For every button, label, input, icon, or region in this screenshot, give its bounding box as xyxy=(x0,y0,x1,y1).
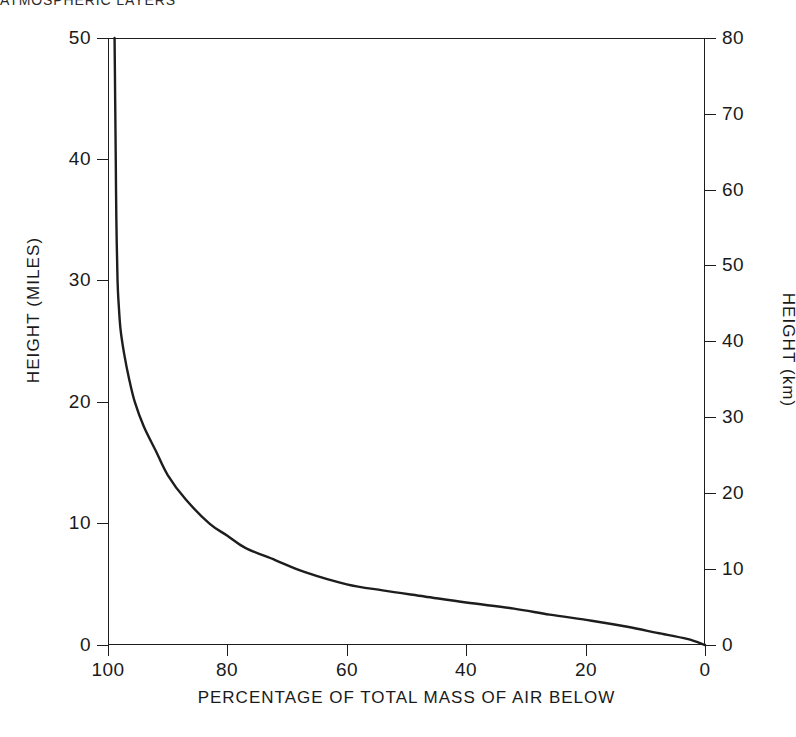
tick-right-80 xyxy=(705,38,716,39)
tick-left-20 xyxy=(97,402,108,403)
curve-path xyxy=(115,38,705,645)
tick-left-30 xyxy=(97,280,108,281)
tick-bottom-40 xyxy=(466,645,467,656)
y-axis-right-tick-label: 20 xyxy=(722,482,744,504)
tick-left-0 xyxy=(97,645,108,646)
y-axis-right-tick-label: 70 xyxy=(722,103,744,125)
y-axis-left-tick-label: 0 xyxy=(1,634,91,656)
tick-left-10 xyxy=(97,523,108,524)
tick-right-30 xyxy=(705,417,716,418)
y-axis-right-tick-label: 50 xyxy=(722,254,744,276)
y-axis-right-tick-label: 80 xyxy=(722,27,744,49)
x-axis-tick-label: 40 xyxy=(426,659,506,681)
tick-right-20 xyxy=(705,493,716,494)
tick-right-10 xyxy=(705,569,716,570)
y-axis-left-tick-label: 50 xyxy=(1,27,91,49)
y-axis-right-tick-label: 10 xyxy=(722,558,744,580)
x-axis-tick-label: 20 xyxy=(546,659,626,681)
y-axis-left-tick-label: 10 xyxy=(1,512,91,534)
tick-left-50 xyxy=(97,38,108,39)
y-axis-right-title: HEIGHT (km) xyxy=(778,240,796,460)
x-axis-tick-label: 80 xyxy=(187,659,267,681)
tick-right-0 xyxy=(705,645,716,646)
tick-right-40 xyxy=(705,341,716,342)
tick-bottom-60 xyxy=(347,645,348,656)
y-axis-right-tick-label: 30 xyxy=(722,406,744,428)
y-axis-right-tick-label: 0 xyxy=(722,634,733,656)
chart-figure: 50 40 30 20 10 0 80 70 60 50 40 30 20 10… xyxy=(0,0,796,737)
data-curve xyxy=(108,38,705,645)
x-axis-tick-label: 0 xyxy=(665,659,745,681)
tick-bottom-0 xyxy=(705,645,706,656)
tick-right-60 xyxy=(705,190,716,191)
tick-bottom-20 xyxy=(586,645,587,656)
y-axis-left-tick-label: 20 xyxy=(1,391,91,413)
tick-left-40 xyxy=(97,159,108,160)
y-axis-right-tick-label: 40 xyxy=(722,330,744,352)
tick-right-50 xyxy=(705,265,716,266)
tick-bottom-100 xyxy=(108,645,109,656)
y-axis-left-tick-label: 40 xyxy=(1,148,91,170)
x-axis-tick-label: 60 xyxy=(307,659,387,681)
y-axis-left-tick-label: 30 xyxy=(1,269,91,291)
y-axis-left-title: HEIGHT (MILES) xyxy=(24,200,44,420)
y-axis-right-tick-label: 60 xyxy=(722,179,744,201)
tick-bottom-80 xyxy=(227,645,228,656)
x-axis-tick-label: 100 xyxy=(68,659,148,681)
tick-right-70 xyxy=(705,114,716,115)
x-axis-title: PERCENTAGE OF TOTAL MASS OF AIR BELOW xyxy=(108,688,705,708)
